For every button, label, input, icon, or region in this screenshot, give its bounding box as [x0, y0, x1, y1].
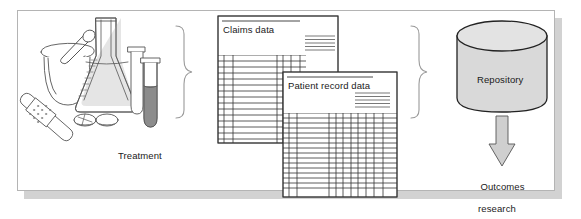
pill-icon	[74, 114, 118, 126]
treatment-illustration	[20, 18, 160, 141]
brace-1-icon	[176, 26, 192, 118]
test-tube-icon	[128, 47, 145, 114]
brace-2-icon	[411, 26, 427, 118]
figure-root: Treatment Claims data Patient record dat…	[0, 0, 581, 219]
patient-record-data-label: Patient record data	[288, 80, 370, 91]
treatment-label: Treatment	[118, 150, 162, 161]
repository-label: Repository	[477, 74, 523, 85]
down-arrow-icon	[489, 116, 515, 166]
outcomes-line-2: research	[462, 203, 532, 214]
syringe-tube-icon	[141, 58, 160, 127]
claims-data-label: Claims data	[223, 24, 274, 35]
outcomes-line-1: Outcomes	[480, 181, 524, 192]
repository-cylinder	[457, 21, 547, 112]
outcomes-research-label: Outcomes research	[462, 170, 532, 219]
